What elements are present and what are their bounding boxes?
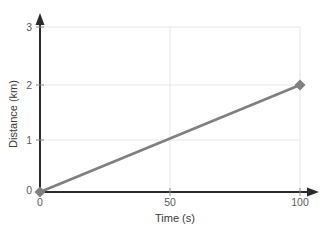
y-tick-label-2: 2 [10,79,32,91]
gridlines [40,27,300,192]
y-tick-label-0: 0 [10,184,32,196]
y-tick-label-1: 1 [10,134,32,146]
y-tick-label-3: 3 [10,21,32,33]
x-tick-label-100: 100 [280,196,320,208]
x-axis-title: Time (s) [130,212,220,224]
y-axis [36,13,45,192]
x-tick-label-0: 0 [20,196,60,208]
data-point-marker-end [295,80,306,91]
x-tick-label-50: 50 [150,196,190,208]
distance-time-chart: Distance (km) Time (s) 3 2 1 0 0 50 100 [0,0,326,236]
y-axis-arrowhead [36,13,45,25]
